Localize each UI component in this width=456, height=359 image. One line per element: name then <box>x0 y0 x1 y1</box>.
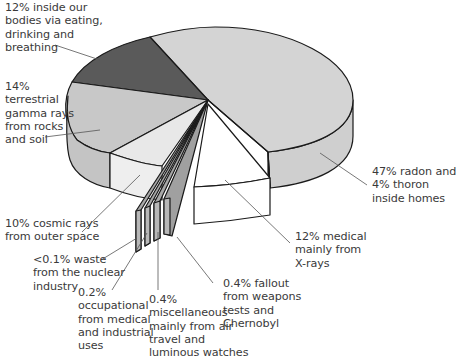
label-cosmic: 10% cosmic rays from outer space <box>5 217 99 244</box>
label-occupational: 0.2% occupational from medical and indus… <box>78 286 153 352</box>
label-terrestrial: 14% terrestrial gamma rays from rocks an… <box>5 80 74 146</box>
label-radon: 47% radon and 4% thoron inside homes <box>372 165 456 205</box>
label-medical: 12% medical mainly from X-rays <box>295 230 366 270</box>
label-internal: 12% inside our bodies via eating, drinki… <box>5 1 103 54</box>
label-fallout: 0.4% fallout from weapons tests and Cher… <box>223 277 301 330</box>
